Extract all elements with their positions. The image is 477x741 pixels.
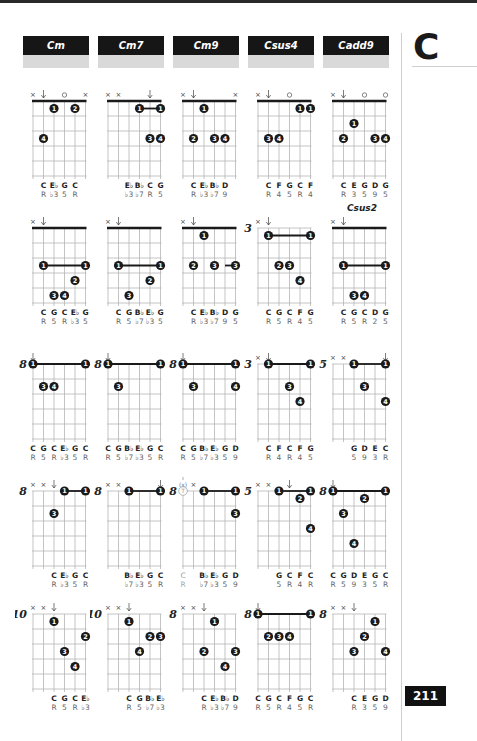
svg-text:♭3: ♭3: [156, 703, 165, 712]
svg-text:R: R: [297, 190, 302, 199]
svg-text:E♭: E♭: [60, 571, 69, 580]
svg-text:C: C: [51, 694, 57, 703]
svg-text:G: G: [340, 571, 346, 580]
chord-diagram: 81134CGB♭E♭GDR5♭7♭359: [165, 350, 244, 473]
svg-text:5: 5: [62, 190, 67, 199]
svg-text:♭3: ♭3: [50, 190, 59, 199]
svg-text:3: 3: [341, 510, 346, 518]
svg-text:1: 1: [116, 262, 121, 270]
svg-text:5: 5: [352, 317, 357, 326]
svg-text:2: 2: [341, 135, 346, 143]
svg-text:4: 4: [298, 398, 303, 406]
chord-tab-1: Cm7: [98, 36, 164, 68]
svg-text:C: C: [266, 444, 272, 453]
svg-text:R: R: [158, 580, 163, 589]
chord-diagram: ××1234CE♭B♭DR♭3♭79: [165, 87, 244, 210]
svg-text:♭3: ♭3: [71, 317, 80, 326]
svg-text:5: 5: [223, 580, 228, 589]
svg-text:×: ×: [30, 91, 36, 99]
svg-text:×: ×: [83, 91, 89, 99]
svg-text:×: ×: [266, 481, 272, 489]
svg-text:5: 5: [277, 317, 282, 326]
svg-text:5: 5: [148, 580, 153, 589]
svg-text:3: 3: [244, 358, 252, 371]
svg-text:G: G: [286, 181, 292, 190]
svg-text:E♭: E♭: [156, 694, 165, 703]
svg-text:×: ×: [330, 354, 336, 362]
svg-text:8: 8: [319, 608, 327, 621]
svg-text:G: G: [147, 444, 153, 453]
svg-text:2: 2: [298, 495, 303, 503]
svg-text:♭7: ♭7: [200, 580, 209, 589]
svg-text:1: 1: [202, 487, 207, 495]
svg-text:5: 5: [223, 453, 228, 462]
svg-text:R: R: [351, 703, 356, 712]
svg-text:×: ×: [255, 481, 261, 489]
svg-text:R: R: [83, 580, 88, 589]
chord-diagram: 8××113CE♭GCR♭35R: [15, 477, 94, 600]
svg-text:♭3: ♭3: [60, 580, 69, 589]
svg-text:1: 1: [352, 360, 357, 368]
svg-text:♭3: ♭3: [125, 190, 134, 199]
chord-diagram: ×1134CGCDGR5R25: [315, 214, 394, 337]
svg-text:C: C: [105, 444, 111, 453]
svg-text:4: 4: [298, 277, 303, 285]
svg-text:E♭: E♭: [210, 694, 219, 703]
svg-text:8: 8: [19, 485, 27, 498]
svg-text:5: 5: [277, 580, 282, 589]
svg-text:5: 5: [137, 703, 142, 712]
svg-text:R: R: [191, 317, 196, 326]
svg-text:♭7: ♭7: [135, 317, 144, 326]
svg-text:3: 3: [266, 135, 271, 143]
svg-text:G: G: [265, 694, 271, 703]
svg-text:R: R: [51, 580, 56, 589]
svg-text:1: 1: [383, 262, 388, 270]
svg-text:5: 5: [352, 453, 357, 462]
svg-text:B♭: B♭: [199, 444, 208, 453]
svg-text:8: 8: [19, 358, 27, 371]
svg-text:C: C: [62, 308, 68, 317]
svg-text:2: 2: [73, 277, 78, 285]
svg-text:R: R: [62, 317, 67, 326]
svg-text:2: 2: [266, 633, 271, 641]
chord-tab-label: Csus4: [248, 36, 314, 55]
svg-text:C: C: [126, 694, 132, 703]
svg-text:C: C: [255, 694, 261, 703]
chord-tab-underbar: [173, 55, 239, 68]
svg-text:R: R: [51, 703, 56, 712]
svg-text:♭3: ♭3: [210, 580, 219, 589]
svg-text:4: 4: [137, 648, 142, 656]
chord-diagram: ××124CE♭GCR♭35R: [15, 87, 94, 210]
svg-text:F: F: [297, 308, 302, 317]
svg-text:4: 4: [233, 383, 238, 391]
svg-text:10: 10: [15, 608, 27, 621]
svg-text:C: C: [287, 308, 293, 317]
svg-text:1: 1: [266, 360, 271, 368]
svg-text:5: 5: [116, 453, 121, 462]
svg-text:2: 2: [277, 262, 282, 270]
svg-text:G: G: [372, 571, 378, 580]
svg-text:×: ×: [41, 604, 47, 612]
svg-text:B♭: B♭: [124, 444, 133, 453]
svg-text:E♭: E♭: [135, 571, 144, 580]
svg-text:♭3: ♭3: [210, 453, 219, 462]
chord-diagram: 8××11B♭E♭GC♭7♭35R: [90, 477, 169, 600]
svg-text:E: E: [372, 444, 377, 453]
svg-text:R: R: [51, 453, 56, 462]
svg-text:1: 1: [233, 360, 238, 368]
svg-text:C: C: [266, 181, 272, 190]
svg-text:E♭: E♭: [200, 181, 209, 190]
svg-text:4: 4: [352, 540, 357, 548]
svg-text:R: R: [126, 703, 131, 712]
chord-diagram: 8113CGB♭E♭GCR5♭7♭35R: [90, 350, 169, 473]
svg-text:4: 4: [277, 453, 282, 462]
svg-text:1: 1: [352, 120, 357, 128]
svg-text:×: ×: [255, 354, 261, 362]
svg-text:B♭: B♭: [220, 694, 229, 703]
svg-text:R: R: [30, 453, 35, 462]
svg-text:C: C: [116, 308, 122, 317]
svg-text:3: 3: [352, 190, 357, 199]
svg-text:1: 1: [212, 618, 217, 626]
svg-text:5: 5: [308, 317, 313, 326]
svg-text:×: ×: [116, 604, 122, 612]
